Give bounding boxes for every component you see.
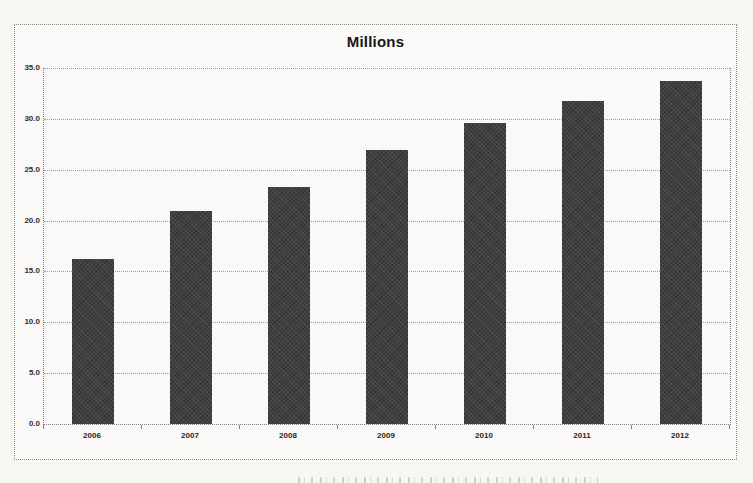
bar-cell-2006 [44,68,142,424]
y-axis-tick-label: 35.0 [16,63,40,73]
bar-2006 [72,259,114,424]
scanned-page: { "page": { "background": "#f8f7f4", "bo… [0,0,753,483]
bars-row [44,68,730,424]
chart-frame: Millions 35.030.025.020.015.010.05.00.0 … [14,24,737,460]
x-axis-tick-mark [631,425,632,429]
bar-cell-2007 [142,68,240,424]
bar-cell-2012 [632,68,730,424]
x-axis-tick-mark [337,425,338,429]
chart-title: Millions [15,33,736,50]
y-axis-tick-label: 15.0 [16,266,40,276]
bar-cell-2010 [436,68,534,424]
x-axis-tick-mark [533,425,534,429]
x-axis-tick-mark [43,425,44,429]
y-axis-tick-label: 10.0 [16,317,40,327]
bar-2009 [366,150,408,424]
bar-cell-2009 [338,68,436,424]
y-axis-tick-label: 20.0 [16,216,40,226]
x-axis-tick-mark [141,425,142,429]
x-axis-tick-mark [729,425,730,429]
x-axis-tick-label-2012: 2012 [631,431,729,440]
bar-2010 [464,123,506,424]
plot-area [43,68,731,425]
x-axis-labels: 2006200720082009201020112012 [43,431,729,440]
bar-cell-2011 [534,68,632,424]
y-axis-tick-label: 30.0 [16,114,40,124]
cut-off-caption-fragment [298,477,598,483]
x-axis-tick-label-2011: 2011 [533,431,631,440]
x-axis-tick-label-2008: 2008 [239,431,337,440]
x-axis-tick-mark [239,425,240,429]
y-axis-tick-label: 25.0 [16,165,40,175]
x-axis-tick-label-2006: 2006 [43,431,141,440]
x-axis-tick-label-2009: 2009 [337,431,435,440]
y-axis-tick-label: 5.0 [16,368,40,378]
y-axis-tick-label: 0.0 [16,419,40,429]
bar-2012 [660,81,702,424]
x-axis-tick-label-2007: 2007 [141,431,239,440]
bar-2008 [268,187,310,424]
x-axis-tick-label-2010: 2010 [435,431,533,440]
bar-cell-2008 [240,68,338,424]
bar-2011 [562,101,604,424]
bar-2007 [170,211,212,424]
x-axis-tick-mark [435,425,436,429]
